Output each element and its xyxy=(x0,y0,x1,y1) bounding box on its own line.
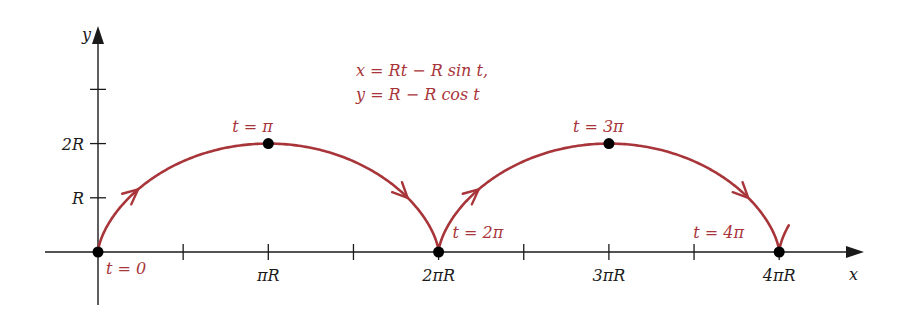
y-tick-label: 2R xyxy=(61,135,84,154)
x-tick-label: 4πR xyxy=(762,266,796,285)
equations: x = Rt − R sin t, y = R − R cos t xyxy=(355,61,488,104)
point-label: t = 3π xyxy=(573,117,624,136)
x-ticks: πR2πR3πR4πR xyxy=(183,244,795,285)
curve-point xyxy=(433,247,444,258)
equation-y: y = R − R cos t xyxy=(355,85,480,104)
x-tick-label: 2πR xyxy=(421,266,455,285)
x-axis-arrow-icon xyxy=(846,246,864,258)
cycloid-curve xyxy=(98,144,789,252)
y-axis-arrow-icon xyxy=(92,26,104,44)
point-label: t = 2π xyxy=(453,223,504,242)
x-axis-label: x xyxy=(849,265,858,284)
curve-point xyxy=(263,138,274,149)
curve-point xyxy=(603,138,614,149)
curve-point xyxy=(93,247,104,258)
y-axis-label: y xyxy=(81,25,92,44)
curve-point xyxy=(774,247,785,258)
point-label: t = 4π xyxy=(693,223,744,242)
x-tick-label: 3πR xyxy=(593,266,626,285)
equation-x: x = Rt − R sin t, xyxy=(356,61,488,80)
y-tick-label: R xyxy=(71,189,84,208)
point-label: t = π xyxy=(232,117,273,136)
direction-arrows xyxy=(122,182,753,204)
key-points: t = 0t = πt = 2πt = 3πt = 4π xyxy=(93,117,785,278)
x-tick-label: πR xyxy=(256,266,280,285)
cycloid-diagram: x y πR2πR3πR4πR R2R x = Rt − R sin t, y … xyxy=(0,0,907,324)
y-ticks: R2R xyxy=(61,89,106,207)
point-label: t = 0 xyxy=(106,259,146,278)
